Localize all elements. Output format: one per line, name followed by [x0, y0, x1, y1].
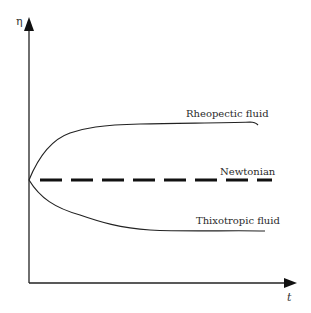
y-axis-label: η	[16, 15, 23, 28]
x-axis-label: t	[287, 291, 292, 304]
newtonian-label: Newtonian	[220, 166, 276, 177]
rheopectic-label: Rheopectic fluid	[186, 108, 269, 119]
viscosity-time-diagram: η t Rheopectic fluid Newtonian Thixotrop…	[0, 0, 311, 313]
y-axis-arrow-icon	[24, 17, 34, 31]
thixotropic-label: Thixotropic fluid	[196, 215, 280, 226]
x-axis-arrow-icon	[284, 278, 297, 288]
